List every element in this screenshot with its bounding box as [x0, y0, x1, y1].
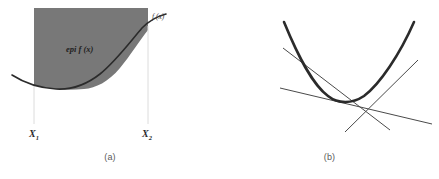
- x2-subscript: 2: [149, 134, 152, 141]
- x1-axis-label: X1: [29, 128, 39, 141]
- caption-panel-b: (b): [220, 152, 439, 162]
- tangent-line-1: [283, 48, 390, 130]
- figure-container: epi f (x) f (x) X1 X2 (a) (b): [0, 0, 439, 179]
- panel-b: (b): [220, 0, 439, 179]
- convex-parabola-curve: [284, 22, 414, 102]
- x1-base: X: [29, 128, 36, 139]
- tangent-line-3: [345, 60, 418, 132]
- panel-a: epi f (x) f (x) X1 X2 (a): [0, 0, 220, 179]
- tangent-line-2: [280, 88, 432, 124]
- epigraph-label: epi f (x): [66, 44, 93, 54]
- x2-axis-label: X2: [142, 128, 152, 141]
- x2-base: X: [142, 128, 149, 139]
- x1-subscript: 1: [36, 134, 39, 141]
- function-label: f (x): [152, 12, 164, 21]
- caption-panel-a: (a): [0, 152, 220, 162]
